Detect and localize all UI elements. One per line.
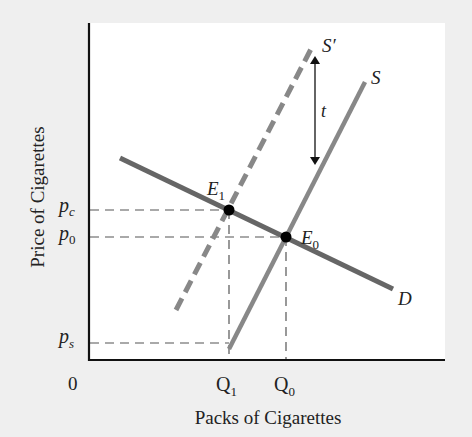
e0-point: [281, 232, 292, 243]
e1-point: [224, 205, 235, 216]
x-axis-title: Packs of Cigarettes: [195, 407, 342, 428]
tax-incidence-diagram: S′ S D t E1 E0 pc p0 ps 0 Q1 Q0 Packs of…: [0, 0, 472, 437]
supply-label: S: [371, 67, 381, 88]
ps-label: ps: [57, 325, 74, 351]
y-axis-title: Price of Cigarettes: [27, 126, 48, 267]
q1-label: Q1: [216, 373, 237, 399]
q0-label: Q0: [274, 373, 295, 399]
demand-label: D: [397, 288, 412, 309]
pc-label: pc: [57, 194, 75, 219]
origin-label: 0: [68, 373, 78, 394]
p0-label: p0: [57, 222, 76, 247]
supply-taxed-label: S′: [322, 35, 337, 56]
plot-area: [89, 23, 445, 360]
